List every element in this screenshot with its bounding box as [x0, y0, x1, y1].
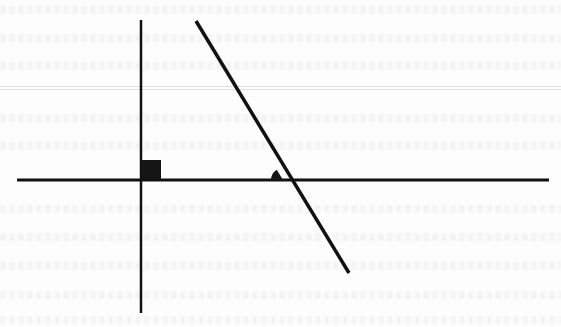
- transversal-line: [196, 21, 349, 273]
- right-angle-marker-icon: [142, 160, 161, 179]
- geometry-figure: [0, 0, 561, 327]
- diagram-canvas: [0, 0, 561, 327]
- angle-marker-icon: [271, 170, 283, 180]
